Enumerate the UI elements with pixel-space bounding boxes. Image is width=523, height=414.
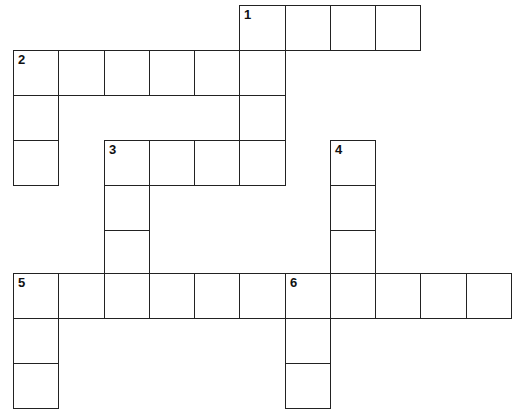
crossword-cell-r6-c3[interactable] xyxy=(149,273,195,319)
crossword-cell-r0-c8[interactable] xyxy=(375,5,421,51)
crossword-cell-r7-c6[interactable] xyxy=(285,318,331,364)
crossword-cell-r0-c7[interactable] xyxy=(330,5,376,51)
crossword-cell-r0-c5[interactable]: 1 xyxy=(239,5,286,51)
crossword-cell-r4-c2[interactable] xyxy=(104,185,150,231)
crossword-cell-r3-c4[interactable] xyxy=(194,140,240,186)
clue-number-4: 4 xyxy=(335,143,342,156)
crossword-cell-r3-c2[interactable]: 3 xyxy=(104,140,150,186)
crossword-cell-r6-c2[interactable] xyxy=(104,273,150,319)
crossword-cell-r2-c0[interactable] xyxy=(13,95,59,141)
crossword-cell-r5-c2[interactable] xyxy=(104,230,150,274)
crossword-cell-r0-c6[interactable] xyxy=(285,5,331,51)
clue-number-6: 6 xyxy=(290,276,297,289)
clue-number-2: 2 xyxy=(18,53,25,66)
crossword-cell-r6-c7[interactable] xyxy=(330,273,376,319)
crossword-cell-r4-c7[interactable] xyxy=(330,185,376,231)
crossword-cell-r6-c9[interactable] xyxy=(420,273,467,319)
clue-number-1: 1 xyxy=(244,8,251,21)
crossword-cell-r6-c4[interactable] xyxy=(194,273,240,319)
crossword-cell-r6-c1[interactable] xyxy=(58,273,105,319)
crossword-cell-r1-c5[interactable] xyxy=(239,50,286,96)
crossword-cell-r2-c5[interactable] xyxy=(239,95,286,141)
crossword-cell-r5-c7[interactable] xyxy=(330,230,376,274)
crossword-cell-r6-c10[interactable] xyxy=(466,273,512,319)
crossword-cell-r6-c5[interactable] xyxy=(239,273,286,319)
crossword-cell-r3-c3[interactable] xyxy=(149,140,195,186)
crossword-cell-r7-c0[interactable] xyxy=(13,318,59,364)
crossword-cell-r6-c6[interactable]: 6 xyxy=(285,273,331,319)
crossword-cell-r1-c4[interactable] xyxy=(194,50,240,96)
crossword-cell-r3-c5[interactable] xyxy=(239,140,286,186)
crossword-cell-r1-c1[interactable] xyxy=(58,50,105,96)
crossword-cell-r6-c8[interactable] xyxy=(375,273,421,319)
crossword-cell-r8-c6[interactable] xyxy=(285,363,331,409)
crossword-cell-r1-c2[interactable] xyxy=(104,50,150,96)
crossword-cell-r3-c0[interactable] xyxy=(13,140,59,186)
clue-number-5: 5 xyxy=(18,276,25,289)
crossword-cell-r1-c0[interactable]: 2 xyxy=(13,50,59,96)
crossword-cell-r1-c3[interactable] xyxy=(149,50,195,96)
crossword-cell-r3-c7[interactable]: 4 xyxy=(330,140,376,186)
crossword-cell-r6-c0[interactable]: 5 xyxy=(13,273,59,319)
clue-number-3: 3 xyxy=(109,143,116,156)
crossword-grid: 123456 xyxy=(0,0,523,414)
crossword-cell-r8-c0[interactable] xyxy=(13,363,59,409)
